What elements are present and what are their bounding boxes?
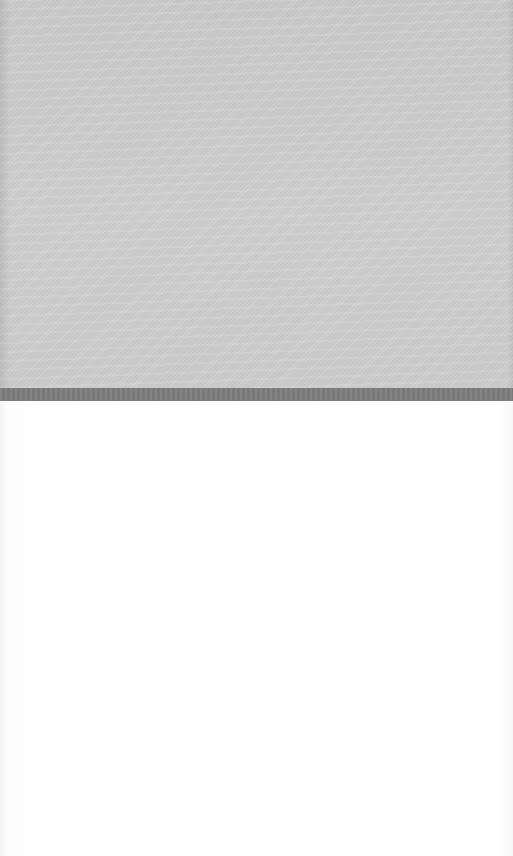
dark-band [0,388,513,401]
white-surface [0,401,513,856]
photo [0,0,513,856]
fabric-panel [0,0,513,388]
